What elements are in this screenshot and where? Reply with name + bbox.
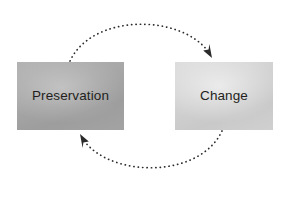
bottom-arc-connector [85, 131, 222, 168]
top-arc-arrowhead-icon [203, 44, 212, 58]
node-change: Change [175, 62, 273, 130]
cycle-diagram: Preservation Change [0, 0, 291, 198]
bottom-arc-arrowhead-icon [80, 134, 89, 148]
node-preservation-label: Preservation [32, 89, 109, 103]
node-change-label: Change [200, 89, 248, 103]
node-preservation: Preservation [17, 62, 124, 130]
top-arc-connector [70, 24, 207, 61]
